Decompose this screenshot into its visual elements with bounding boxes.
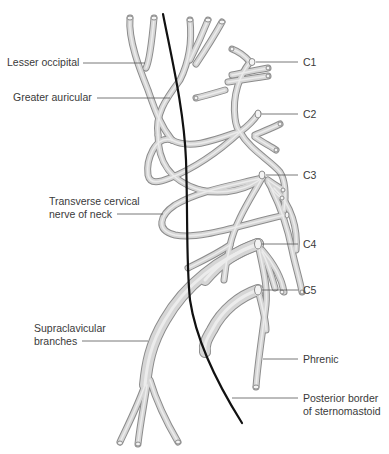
label-supraclavicular-line1: Supraclavicular xyxy=(34,322,106,335)
label-transverse-cervical-line2: nerve of neck xyxy=(49,208,140,221)
label-phrenic: Phrenic xyxy=(303,353,339,366)
label-lesser-occipital: Lesser occipital xyxy=(7,56,79,69)
label-c5: C5 xyxy=(303,284,316,297)
label-c3: C3 xyxy=(303,169,316,182)
label-supraclavicular: Supraclavicular branches xyxy=(34,322,106,348)
label-supraclavicular-line2: branches xyxy=(34,335,106,348)
label-c2: C2 xyxy=(303,108,316,121)
label-c4: C4 xyxy=(303,238,316,251)
label-transverse-cervical-line1: Transverse cervical xyxy=(49,195,140,208)
label-sternomastoid-line1: Posterior border xyxy=(303,392,381,405)
label-greater-auricular: Greater auricular xyxy=(13,91,92,104)
leader-lines xyxy=(82,62,298,398)
label-c1: C1 xyxy=(303,56,316,69)
label-sternomastoid-line2: of sternomastoid xyxy=(303,405,381,418)
label-sternomastoid: Posterior border of sternomastoid xyxy=(303,392,381,418)
label-transverse-cervical: Transverse cervical nerve of neck xyxy=(49,195,140,221)
